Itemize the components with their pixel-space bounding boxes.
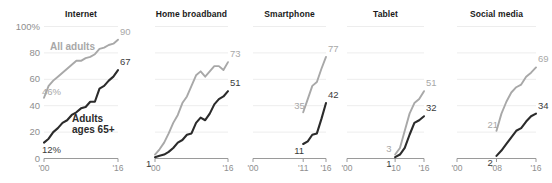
series-start-value: 2 [488, 157, 493, 168]
series-label-adults-65-plus: Adultsages 65+ [72, 113, 115, 135]
x-axis-tick-label: '00 [337, 163, 357, 173]
series-start-value: 35 [294, 100, 305, 111]
series-end-value: 67 [120, 56, 131, 67]
y-axis-tick-label: 40 [0, 100, 40, 111]
y-axis-tick-label: 80 [0, 47, 40, 58]
series-end-value: 32 [426, 102, 437, 113]
series-start-value: 1 [146, 158, 151, 169]
multi-panel-line-chart: 020406080100%'00'16Internet9046%6712%'00… [0, 0, 552, 183]
y-axis-tick-label: 0 [0, 153, 40, 164]
x-axis-tick-label: '00 [34, 163, 54, 173]
y-axis-tick-label: 20 [0, 126, 40, 137]
x-axis-tick-label: '16 [316, 163, 336, 173]
series-label-line: Adults [72, 113, 115, 124]
series-line-adults-65-plus [497, 114, 537, 156]
series-start-value: 46% [42, 86, 61, 97]
series-end-value: 77 [328, 43, 339, 54]
series-end-value: 90 [120, 26, 131, 37]
series-start-value: 11 [294, 145, 304, 156]
chart-canvas [0, 0, 552, 183]
series-end-value: 34 [538, 100, 549, 111]
x-axis-tick-label: '00 [447, 163, 467, 173]
series-line-all-adults [155, 62, 228, 154]
series-line-adults-65-plus [303, 103, 326, 144]
series-end-value: 42 [328, 89, 339, 100]
panel-title-social-media: Social media [427, 9, 552, 19]
series-end-value: 51 [230, 77, 241, 88]
series-line-adults-65-plus [155, 91, 228, 157]
series-label-line: ages 65+ [72, 124, 115, 135]
series-start-value: 3 [386, 143, 391, 154]
x-axis-tick-label: '16 [108, 163, 128, 173]
series-end-value: 51 [426, 77, 437, 88]
x-axis-tick-label: '11 [293, 163, 313, 173]
series-start-value: 1 [386, 158, 391, 169]
y-axis-tick-label: 60 [0, 73, 40, 84]
x-axis-tick-label: '16 [526, 163, 546, 173]
series-line-all-adults [303, 57, 326, 112]
y-axis-tick-label: 100% [0, 21, 40, 32]
series-start-value: 21 [488, 119, 499, 130]
x-axis-tick-label: '00 [243, 163, 263, 173]
series-line-adults-65-plus [395, 116, 424, 157]
x-axis-tick-label: '16 [414, 163, 434, 173]
series-label-all-adults: All adults [50, 41, 95, 52]
series-line-all-adults [497, 67, 537, 130]
x-axis-tick-label: '16 [218, 163, 238, 173]
series-end-value: 69 [538, 53, 549, 64]
series-end-value: 73 [230, 48, 241, 59]
series-start-value: 12% [42, 144, 61, 155]
series-line-all-adults [395, 91, 424, 154]
